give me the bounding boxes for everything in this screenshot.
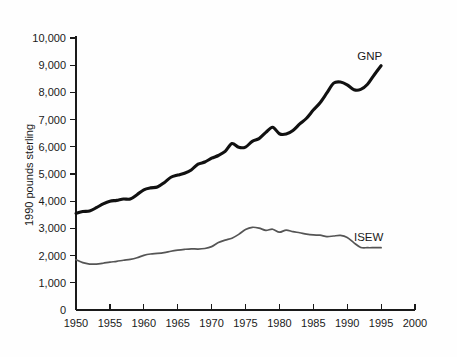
series-line-gnp [76, 66, 381, 214]
chart-container: 01,0002,0003,0004,0005,0006,0007,0008,00… [0, 0, 457, 357]
line-chart: 01,0002,0003,0004,0005,0006,0007,0008,00… [0, 0, 457, 357]
x-tick-label: 1960 [132, 317, 156, 329]
y-tick-label: 9,000 [38, 59, 66, 71]
series-lines [76, 66, 381, 264]
x-axis: 1950195519601965197019751980198519901995… [64, 304, 427, 329]
y-tick-label: 6,000 [38, 141, 66, 153]
y-tick-label: 8,000 [38, 86, 66, 98]
x-tick-label: 2000 [403, 317, 427, 329]
x-tick-label: 1955 [98, 317, 122, 329]
y-axis-title: 1990 pounds sterling [23, 124, 35, 226]
y-tick-label: 10,000 [32, 32, 66, 44]
x-tick-label: 1985 [301, 317, 325, 329]
x-tick-label: 1990 [335, 317, 359, 329]
y-tick-label: 7,000 [38, 114, 66, 126]
series-label-isew: ISEW [354, 231, 384, 243]
y-tick-label: 3,000 [38, 222, 66, 234]
x-tick-label: 1975 [233, 317, 257, 329]
series-labels: GNPISEW [354, 50, 384, 243]
series-label-gnp: GNP [357, 50, 382, 62]
x-tick-label: 1995 [369, 317, 393, 329]
y-tick-label: 0 [60, 304, 66, 316]
x-tick-label: 1950 [64, 317, 88, 329]
x-tick-label: 1970 [199, 317, 223, 329]
series-line-isew [76, 227, 381, 264]
y-tick-label: 1,000 [38, 277, 66, 289]
x-tick-label: 1965 [165, 317, 189, 329]
y-tick-label: 4,000 [38, 195, 66, 207]
y-axis: 01,0002,0003,0004,0005,0006,0007,0008,00… [32, 32, 76, 316]
x-tick-label: 1980 [267, 317, 291, 329]
y-tick-label: 2,000 [38, 250, 66, 262]
y-tick-label: 5,000 [38, 168, 66, 180]
